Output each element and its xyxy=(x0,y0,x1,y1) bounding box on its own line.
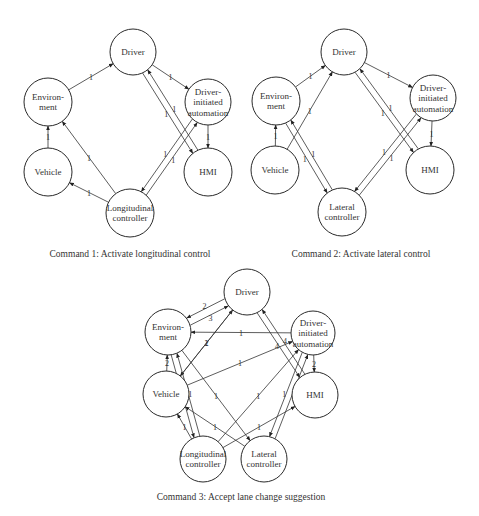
node-label: Vehicle xyxy=(35,167,62,177)
node-lon: Longitudinalcontroller xyxy=(180,436,227,482)
edge-count-label: 1 xyxy=(89,73,93,82)
edge-hmi-to-driver: 1 xyxy=(360,69,418,149)
node-driver: Driver xyxy=(224,269,270,315)
node-lat: Lateralcontroller xyxy=(241,436,287,482)
edge-count-label: 1 xyxy=(214,392,218,401)
edge-count-label: 1 xyxy=(382,148,386,157)
edge-driver-to-dia: 1 xyxy=(364,63,412,88)
node-env: Environ-ment xyxy=(145,309,191,355)
edge-count-label: 1 xyxy=(169,73,173,82)
edge-lon-to-vehicle: 1 xyxy=(69,183,108,203)
edge-count-label: 1 xyxy=(282,390,286,399)
edge-count-label: 1 xyxy=(213,423,217,432)
node-hmi: HMI xyxy=(406,146,454,194)
node-driver: Driver xyxy=(110,29,156,75)
edge-count-label: 2 xyxy=(203,302,207,311)
edge-count-label: 1 xyxy=(183,423,187,432)
node-label: Driver xyxy=(121,47,145,57)
node-label: Longitudinal xyxy=(180,449,227,459)
node-label: Environ- xyxy=(32,92,64,102)
node-label: initiated xyxy=(298,328,328,338)
node-label: initiated xyxy=(193,97,223,107)
node-label: Lateral xyxy=(329,202,355,212)
node-label: controller xyxy=(186,459,221,469)
node-lon: Longitudinalcontroller xyxy=(106,189,154,237)
edge-count-label: 4 xyxy=(275,342,279,351)
edge-count-label: 1 xyxy=(205,339,209,348)
edge-dia-to-lon: 1 xyxy=(141,119,192,192)
node-label: ment xyxy=(159,332,177,342)
edge-dia-to-hmi: 2 xyxy=(312,355,316,372)
figure-cmd1-edges: 1111111111 xyxy=(46,64,210,203)
figure-cmd2-nodes: DriverEnviron-mentDriver-initiatedautoma… xyxy=(251,29,456,236)
node-label: HMI xyxy=(199,167,217,177)
node-label: Longitudinal xyxy=(107,203,154,213)
node-label: ment xyxy=(39,102,57,112)
node-label: HMI xyxy=(306,390,324,400)
edge-count-label: 1 xyxy=(430,130,434,139)
edge-count-label: 2 xyxy=(312,360,316,369)
edge-count-label: 3 xyxy=(208,314,212,323)
caption-command-1: Command 1: Activate longitudinal control xyxy=(50,249,211,259)
edge-count-label: 1 xyxy=(303,155,307,164)
node-label: Lateral xyxy=(251,449,277,459)
node-vehicle: Vehicle xyxy=(143,371,189,417)
edge-count-label: 1 xyxy=(171,156,175,165)
node-dia: Driver-initiatedautomation xyxy=(410,75,456,121)
node-hmi: HMI xyxy=(184,148,232,196)
node-label: HMI xyxy=(421,165,439,175)
node-dia: Driver-initiatedautomation xyxy=(185,79,231,125)
node-label: Driver- xyxy=(195,87,221,97)
edge-driver-to-hmi: 1 xyxy=(355,72,413,152)
node-driver: Driver xyxy=(321,29,367,75)
edge-count-label: 1 xyxy=(308,107,312,116)
edge-count-label: 1 xyxy=(257,423,261,432)
node-label: automation xyxy=(293,339,334,349)
edge-dia-to-lat: 1 xyxy=(355,114,417,191)
edge-count-label: 1 xyxy=(311,150,315,159)
edge-count-label: 1 xyxy=(387,71,391,80)
edge-dia-to-hmi: 1 xyxy=(206,125,210,148)
node-label: automation xyxy=(413,104,454,114)
edge-count-label: 1 xyxy=(256,392,260,401)
figure-cmd3-nodes: DriverEnviron-mentDriver-initiatedautoma… xyxy=(143,269,338,482)
edge-dia-to-hmi: 1 xyxy=(430,121,434,146)
edge-vehicle-to-env: 1 xyxy=(46,126,50,148)
edge-driver-to-env: 2 xyxy=(187,299,225,318)
edge-count-label: 1 xyxy=(239,329,243,338)
edge-count-label: 1 xyxy=(172,105,176,114)
node-label: Driver xyxy=(235,287,259,297)
edge-count-label: 1 xyxy=(163,150,167,159)
node-env: Environ-ment xyxy=(252,77,300,125)
edge-count-label: 1 xyxy=(46,133,50,142)
node-label: Environ- xyxy=(152,322,184,332)
node-label: Environ- xyxy=(260,91,292,101)
caption-command-3: Command 3: Accept lane change suggestion xyxy=(157,492,326,502)
node-vehicle: Vehicle xyxy=(24,148,72,196)
edge-count-label: 1 xyxy=(308,72,312,81)
node-label: Vehicle xyxy=(262,165,289,175)
edge-driver-to-hmi: 1 xyxy=(143,73,193,153)
edge-count-label: 1 xyxy=(389,104,393,113)
node-label: initiated xyxy=(418,93,448,103)
node-label: controller xyxy=(325,212,360,222)
edge-count-label: 1 xyxy=(87,154,91,163)
node-hmi: HMI xyxy=(292,372,338,418)
caption-command-2: Command 2: Activate lateral control xyxy=(292,249,431,259)
node-label: Vehicle xyxy=(153,389,180,399)
node-label: ment xyxy=(267,101,285,111)
node-label: automation xyxy=(188,108,229,118)
figure-cmd1-nodes: DriverEnviron-mentDriver-initiatedautoma… xyxy=(24,29,232,237)
node-label: Driver- xyxy=(420,83,446,93)
edge-count-label: 1 xyxy=(87,189,91,198)
node-vehicle: Vehicle xyxy=(251,146,299,194)
edge-count-label: 1 xyxy=(381,109,385,118)
edge-vehicle-to-env: 2 xyxy=(165,355,169,371)
node-env: Environ-ment xyxy=(24,78,72,126)
edge-env-to-driver: 1 xyxy=(295,65,325,87)
edge-count-label: 1 xyxy=(390,154,394,163)
edge-count-label: 1 xyxy=(274,132,278,141)
edge-vehicle-to-env: 1 xyxy=(274,125,278,146)
node-label: Driver xyxy=(332,47,356,57)
edge-env-to-driver: 1 xyxy=(69,64,113,90)
